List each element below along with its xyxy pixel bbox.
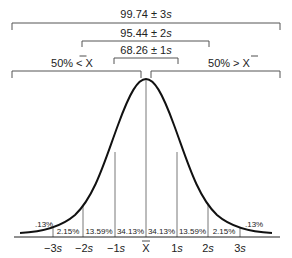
area-tail-left: .13% <box>35 220 53 229</box>
area-label: 13.59% <box>85 227 112 236</box>
bracket-right-half: 50% > X <box>151 56 280 78</box>
bracket-2s-label: 95.44 ± 2s <box>120 27 172 39</box>
bracket-3s-label: 99.74 ± 3s <box>120 8 172 20</box>
left-half-label: 50% < X <box>51 57 94 69</box>
tick-plus-1s: 1s <box>171 242 183 254</box>
diagram-canvas: 99.74 ± 3s 95.44 ± 2s 68.26 ± 1s 50% < X… <box>0 0 292 258</box>
tick-mean: X <box>142 242 150 254</box>
tick-minus-1s: −1s <box>107 242 126 254</box>
area-tail-right: .13% <box>245 220 263 229</box>
sigma-lines <box>53 79 240 237</box>
tick-minus-3s: −3s <box>44 242 63 254</box>
bracket-1s: 68.26 ± 1s <box>114 44 178 64</box>
area-label: 34.13% <box>148 227 175 236</box>
area-label: 13.59% <box>179 227 206 236</box>
area-label: 34.13% <box>117 227 144 236</box>
tick-minus-2s: −2s <box>75 242 94 254</box>
area-label: 2.15% <box>213 227 236 236</box>
normal-distribution-diagram: 99.74 ± 3s 95.44 ± 2s 68.26 ± 1s 50% < X… <box>0 0 292 258</box>
bracket-1s-label: 68.26 ± 1s <box>120 44 172 56</box>
right-half-label: 50% > X <box>208 57 251 69</box>
tick-labels: −3s −2s −1s X 1s 2s 3s <box>44 241 246 254</box>
bracket-left-half: 50% < X <box>12 56 141 78</box>
tick-plus-2s: 2s <box>202 242 214 254</box>
tick-plus-3s: 3s <box>234 242 246 254</box>
area-label: 2.15% <box>57 227 80 236</box>
